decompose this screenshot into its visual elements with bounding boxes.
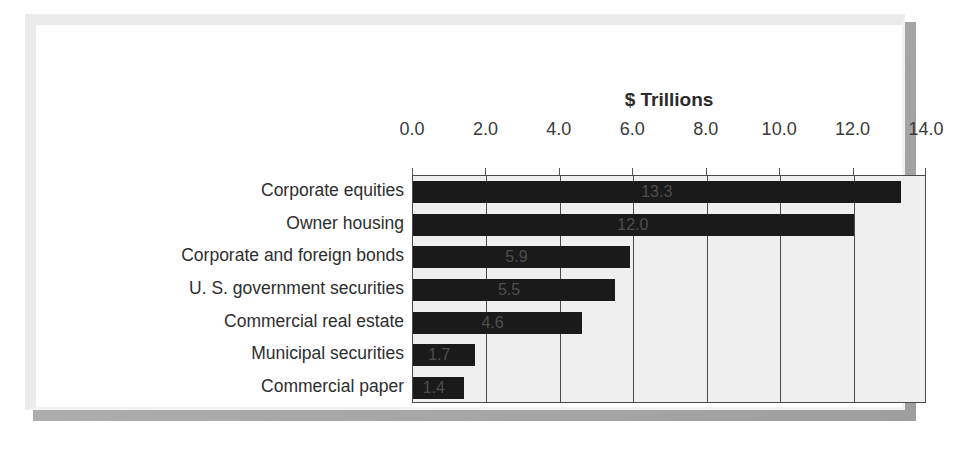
category-label: Corporate equities [76,182,404,200]
bar [413,181,901,203]
x-tick-label: 6.0 [620,119,645,140]
x-tick-mark [853,168,854,175]
bar-row: 1.7 [413,344,927,366]
x-tick-mark [925,168,926,175]
x-tick-label: 4.0 [546,119,571,140]
x-tick-label: 14.0 [908,119,943,140]
bar [413,246,630,268]
category-label: Municipal securities [76,345,404,363]
x-tick-label: 12.0 [835,119,870,140]
bar-row: 12.0 [413,214,927,236]
x-tick-mark [412,168,413,175]
x-tick-label: 8.0 [693,119,718,140]
x-tick-label: 0.0 [399,119,424,140]
x-tick-mark [559,168,560,175]
plot-area: 13.312.05.95.54.61.71.4 [412,175,926,403]
x-tick-mark [779,168,780,175]
category-label: Commercial paper [76,378,404,396]
category-label: Corporate and foreign bonds [76,247,404,265]
x-tick-mark [485,168,486,175]
category-label: Commercial real estate [76,313,404,331]
x-tick-label: 10.0 [762,119,797,140]
x-tick-mark [706,168,707,175]
chart-screenshot: $ Trillions 0.02.04.06.08.010.012.014.0 … [0,0,968,453]
bar [413,279,615,301]
x-axis-tick-labels: 0.02.04.06.08.010.012.014.0 [412,119,926,145]
category-axis-labels: Corporate equitiesOwner housingCorporate… [76,175,404,403]
bar [413,344,475,366]
bar-row: 5.9 [413,246,927,268]
chart-title: $ Trillions [412,89,926,111]
category-label: U. S. government securities [76,280,404,298]
bar-row: 1.4 [413,377,927,399]
bar-row: 4.6 [413,312,927,334]
chart-card: $ Trillions 0.02.04.06.08.010.012.014.0 … [25,14,905,410]
x-tick-mark [632,168,633,175]
bar-series: 13.312.05.95.54.61.71.4 [413,176,925,402]
bar-row: 13.3 [413,181,927,203]
bar-row: 5.5 [413,279,927,301]
bar [413,377,464,399]
x-tick-label: 2.0 [473,119,498,140]
bar [413,214,854,236]
category-label: Owner housing [76,215,404,233]
bar [413,312,582,334]
